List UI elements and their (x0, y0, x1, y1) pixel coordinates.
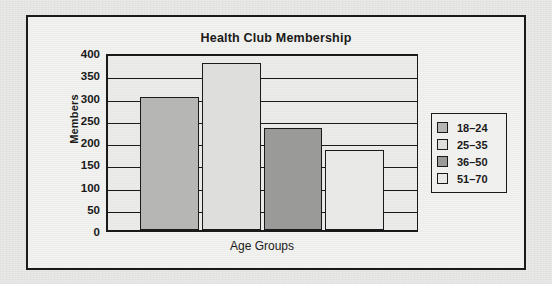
y-axis-tick-label: 350 (81, 70, 100, 82)
x-axis-title: Age Groups (106, 239, 418, 253)
y-axis-tick-label: 100 (81, 182, 100, 194)
chart-title: Health Club Membership (28, 31, 524, 45)
y-axis-tick-label: 300 (81, 93, 100, 105)
bar-36–50 (264, 128, 323, 230)
bar-51–70 (325, 150, 384, 230)
bar-25–35 (202, 63, 261, 230)
legend-swatch-icon (437, 139, 448, 150)
y-axis-tick-label: 200 (81, 137, 100, 149)
legend-item: 36–50 (437, 153, 502, 170)
y-axis-tick-label: 50 (87, 204, 100, 216)
y-axis-tick-labels: 400350300250200150100500 (58, 54, 104, 232)
y-axis-tick-label: 250 (81, 115, 100, 127)
legend-item: 25–35 (437, 136, 502, 153)
legend-item: 18–24 (437, 119, 502, 136)
legend-item-label: 51–70 (457, 173, 488, 185)
legend-swatch-icon (437, 122, 448, 133)
legend-item-label: 25–35 (457, 139, 488, 151)
bar-series (108, 56, 417, 230)
page-background: Health Club Membership Members 400350300… (0, 0, 552, 284)
chart-legend: 18–2425–3536–5051–70 (431, 113, 507, 193)
y-axis-tick-label: 0 (94, 226, 100, 238)
legend-swatch-icon (437, 173, 448, 184)
legend-item-label: 18–24 (457, 122, 488, 134)
y-axis-tick-label: 150 (81, 159, 100, 171)
y-axis-tick-label: 400 (81, 48, 100, 60)
legend-item-label: 36–50 (457, 156, 488, 168)
chart-figure: Health Club Membership Members 400350300… (26, 15, 526, 270)
bar-18–24 (140, 97, 199, 231)
legend-item: 51–70 (437, 170, 502, 187)
legend-swatch-icon (437, 156, 448, 167)
plot-area (106, 54, 418, 232)
